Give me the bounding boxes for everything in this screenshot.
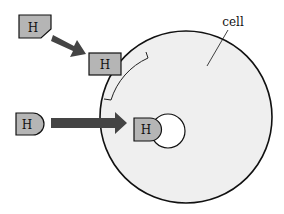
svg-text:H: H — [28, 21, 38, 35]
svg-text:H: H — [100, 58, 110, 72]
hormone-steroid-inside: H — [134, 118, 162, 141]
arrow-icon — [51, 112, 127, 134]
svg-text:H: H — [22, 118, 32, 132]
cell-label: cell — [222, 15, 244, 29]
hormone-peptide-at-receptor: H — [89, 53, 121, 75]
hormone-steroid-outside: H — [16, 113, 44, 135]
hormone-cell-diagram: cell H H H H — [0, 0, 284, 214]
svg-text:H: H — [141, 123, 151, 137]
cell-body — [100, 31, 272, 203]
arrow-icon — [51, 35, 86, 57]
hormone-peptide-outside: H — [19, 15, 51, 38]
